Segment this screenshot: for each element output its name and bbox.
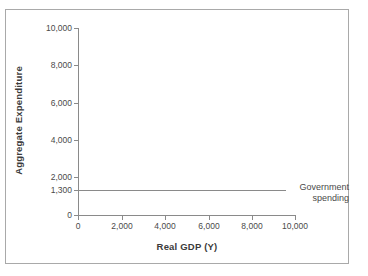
x-axis-title: Real GDP (Y) [78,241,296,252]
y-axis-title: Aggregate Expenditure [13,41,24,201]
x-tick-mark-6000 [209,216,210,220]
chart-plot-area: 10,000 8,000 6,000 4,000 2,000 1,300 0 0… [0,0,368,276]
series-label-line-2: spending [289,193,349,204]
x-tick-label-0: 0 [76,222,81,231]
x-tick-label-4000: 4,000 [154,222,175,231]
x-tick-mark-0 [78,216,79,220]
x-tick-mark-2000 [122,216,123,220]
x-tick-label-2000: 2,000 [111,222,132,231]
x-tick-label-6000: 6,000 [198,222,219,231]
y-tick-label-8000: 8,000 [51,61,72,70]
series-label-line-1: Government [289,182,349,193]
x-tick-mark-8000 [252,216,253,220]
y-tick-mark-2000 [74,177,78,178]
y-axis-line [78,28,79,216]
y-tick-mark-10000 [74,28,78,29]
y-tick-label-4000: 4,000 [51,136,72,145]
x-tick-label-8000: 8,000 [241,222,262,231]
y-tick-mark-4000 [74,140,78,141]
y-tick-label-2000: 2,000 [51,173,72,182]
y-tick-label-0: 0 [67,211,72,220]
series-line-government-spending [78,190,286,191]
y-tick-label-1300: 1,300 [51,186,72,195]
x-tick-label-10000: 10,000 [282,222,308,231]
x-tick-mark-10000 [295,216,296,220]
y-tick-label-6000: 6,000 [51,99,72,108]
y-tick-mark-6000 [74,103,78,104]
y-tick-mark-8000 [74,65,78,66]
x-tick-mark-4000 [165,216,166,220]
x-axis-line [78,215,296,216]
series-label-government-spending: Government spending [289,182,349,204]
y-tick-label-10000: 10,000 [46,24,72,33]
